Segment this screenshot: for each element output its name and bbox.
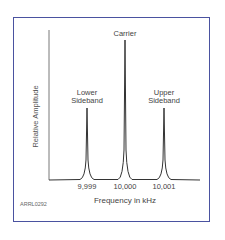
upper-sideband-label-line2: Sideband (141, 97, 187, 105)
spectrum-trace (49, 40, 200, 180)
y-axis-label: Relative Amplitude (31, 72, 40, 162)
carrier-label: Carrier (110, 30, 140, 38)
lower-sideband-label-line2: Sideband (64, 97, 110, 105)
x-tick-10001: 10,001 (149, 183, 179, 191)
x-tick-9999: 9,999 (72, 183, 102, 191)
x-tick-10000: 10,000 (110, 183, 140, 191)
figure-credit: ARRL0292 (20, 201, 47, 207)
x-axis-label: Frequency in kHz (85, 197, 165, 205)
